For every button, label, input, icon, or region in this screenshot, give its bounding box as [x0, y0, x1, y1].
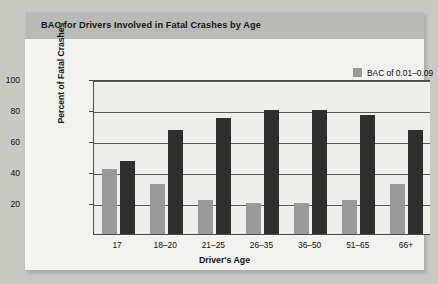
y-tick-mark: [89, 173, 93, 174]
bar[interactable]: [216, 118, 231, 234]
x-tick-label: 17: [92, 240, 142, 250]
y-tick-label: 20: [0, 199, 20, 209]
bar-group: [198, 81, 231, 234]
bar[interactable]: [198, 200, 213, 234]
bar[interactable]: [312, 110, 327, 234]
bar[interactable]: [390, 184, 405, 234]
bar-group: [150, 81, 183, 234]
x-tick-label: 21–25: [188, 240, 238, 250]
legend-label: BAC of 0.01–0.09: [367, 68, 433, 78]
y-tick-mark: [89, 111, 93, 112]
chart-card: BAC for Drivers Involved in Fatal Crashe…: [25, 12, 424, 270]
legend-item[interactable]: BAC of 0.01–0.09: [353, 66, 438, 79]
y-tick-label: 100: [0, 75, 20, 85]
bar[interactable]: [150, 184, 165, 234]
bar-group: [294, 81, 327, 234]
x-tick-label: 66+: [381, 240, 431, 250]
chart-title-band: BAC for Drivers Involved in Fatal Crashe…: [25, 12, 424, 39]
bar[interactable]: [342, 200, 357, 234]
bar-group: [102, 81, 135, 234]
page-title: BAC for Drivers Involved in Fatal Crashe…: [41, 20, 261, 30]
bar-group: [342, 81, 375, 234]
bar-group: [390, 81, 423, 234]
bar[interactable]: [168, 130, 183, 234]
x-axis-title: Driver's Age: [25, 255, 424, 265]
bar-series-container: [94, 81, 430, 234]
y-axis-title: Percent of Fatal Crashes: [56, 13, 66, 133]
bar[interactable]: [246, 203, 261, 234]
bar-group: [246, 81, 279, 234]
bar[interactable]: [264, 110, 279, 234]
bar[interactable]: [102, 169, 117, 234]
x-tick-label: 26–35: [237, 240, 287, 250]
x-tick-label: 36–50: [285, 240, 335, 250]
bar[interactable]: [360, 115, 375, 234]
bar[interactable]: [294, 203, 309, 234]
bar[interactable]: [408, 130, 423, 234]
bar[interactable]: [120, 161, 135, 234]
x-tick-label: 51–65: [333, 240, 383, 250]
plot-area: [93, 80, 430, 235]
y-tick-mark: [89, 204, 93, 205]
legend-swatch-light: [353, 68, 362, 77]
y-tick-label: 40: [0, 168, 20, 178]
x-tick-label: 18–20: [140, 240, 190, 250]
y-tick-label: 80: [0, 106, 20, 116]
y-tick-label: 60: [0, 137, 20, 147]
y-tick-mark: [89, 142, 93, 143]
y-tick-mark: [89, 80, 93, 81]
